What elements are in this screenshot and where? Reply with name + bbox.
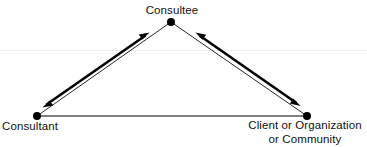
node-label-consultant: Consultant: [2, 120, 82, 133]
arrow-right-shaft: [200, 36, 297, 104]
edge-consultant-consultee: [37, 22, 171, 116]
node-label-client-line2: or Community: [243, 132, 367, 146]
triangle-edges: [37, 22, 307, 116]
node-consultant-dot: [33, 112, 41, 120]
arrow-right-double-headed: [195, 33, 300, 106]
node-consultee-dot: [167, 18, 175, 26]
arrow-left-shaft: [47, 36, 146, 105]
consultation-triangle-diagram: Consultee Consultant Client or Organizat…: [0, 0, 367, 147]
node-label-client: Client or Organization or Community: [243, 118, 367, 146]
diagram-nodes: [33, 18, 311, 120]
node-label-client-line1: Client or Organization: [243, 118, 367, 132]
edge-consultee-client: [171, 22, 307, 116]
arrow-left-double-headed: [42, 33, 149, 108]
node-label-consultee: Consultee: [134, 4, 210, 17]
